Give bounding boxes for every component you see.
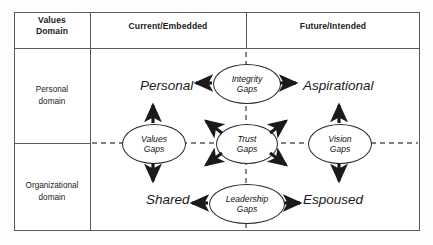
node-vision-gaps: Vision Gaps [308, 124, 372, 164]
node-trust-gaps: Trust Gaps [216, 124, 278, 164]
values-domain-diagram: Values Domain Current/Embedded Future/In… [0, 0, 433, 245]
node-integrity-gaps: Integrity Gaps [213, 64, 281, 104]
row-header-personal-line2: domain [14, 96, 90, 108]
corner-header-values-domain: Values Domain [14, 15, 90, 37]
column-header-future-intended: Future/Intended [246, 21, 420, 32]
node-trust-line1: Trust [238, 134, 257, 144]
node-values-gaps: Values Gaps [122, 124, 186, 164]
quadrant-label-shared: Shared [146, 192, 190, 207]
node-vision-line1: Vision [328, 134, 351, 144]
node-integrity-line2: Gaps [237, 84, 258, 94]
row-header-org-line1: Organizational [14, 180, 90, 192]
row-header-personal-line1: Personal [14, 84, 90, 96]
column-header-current-embedded: Current/Embedded [90, 21, 246, 32]
row-header-personal-domain: Personal domain [14, 84, 90, 107]
corner-header-line2: Domain [14, 26, 90, 37]
quadrant-label-aspirational: Aspirational [303, 78, 374, 93]
quadrant-label-espoused: Espoused [303, 192, 363, 207]
row-header-org-line2: domain [14, 192, 90, 204]
node-values-line1: Values [141, 134, 167, 144]
row-header-organizational-domain: Organizational domain [14, 180, 90, 203]
node-vision-line2: Gaps [330, 144, 351, 154]
node-trust-line2: Gaps [237, 144, 258, 154]
header-row-rule [14, 48, 420, 49]
node-leadership-line1: Leadership [226, 194, 269, 204]
node-leadership-line2: Gaps [237, 204, 258, 214]
node-values-line2: Gaps [144, 144, 165, 154]
label-column-divider [90, 12, 91, 231]
node-integrity-line1: Integrity [232, 74, 263, 84]
corner-header-line1: Values [14, 15, 90, 26]
quadrant-label-personal: Personal [140, 78, 193, 93]
middle-row-rule-solid [14, 143, 90, 144]
node-leadership-gaps: Leadership Gaps [209, 184, 285, 224]
